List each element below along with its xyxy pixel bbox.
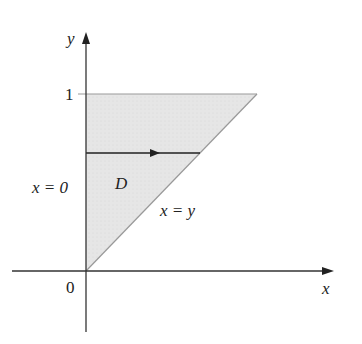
left-boundary-label: x = 0 [31,178,69,197]
y-axis-label: y [65,29,75,48]
x-axis-arrow-icon [322,267,334,275]
x-axis-label: x [321,279,330,298]
y-axis-arrow-icon [82,32,90,44]
y-tick-1-label: 1 [65,85,74,104]
origin-label: 0 [66,278,75,297]
region-diagram: y 1 x = 0 D x = y 0 x [0,0,362,344]
diagonal-boundary-label: x = y [159,201,196,220]
region-label: D [114,174,128,193]
